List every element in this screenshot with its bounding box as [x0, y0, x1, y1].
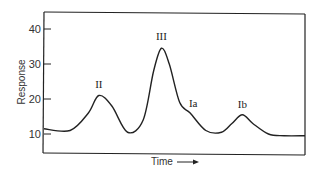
x-axis-label-group: Time: [151, 156, 199, 167]
peak-label-ii: II: [95, 78, 103, 90]
peak-label-ib: Ib: [238, 98, 248, 110]
x-axis-label: Time: [151, 156, 173, 167]
y-axis-label: Response: [16, 59, 27, 104]
arrow-right-icon: [177, 160, 199, 165]
y-tick-label: 30: [29, 58, 41, 70]
chart: 10203040 Response IIIIIIaIb Time: [0, 0, 318, 172]
y-tick-label: 10: [29, 128, 41, 140]
peak-label-iii: III: [156, 30, 167, 42]
y-tick-label: 40: [29, 23, 41, 35]
response-curve: [44, 48, 305, 136]
y-tick-label: 20: [29, 93, 41, 105]
peak-label-ia: Ia: [189, 97, 198, 109]
y-axis-ticks: 10203040: [29, 23, 51, 140]
